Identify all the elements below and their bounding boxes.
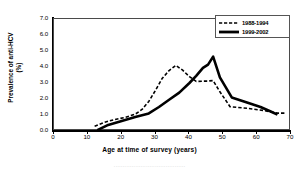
x-tick-label: 70 xyxy=(282,134,298,140)
chart-legend: 1988-1994 1999-2002 xyxy=(215,15,290,38)
x-tick-label: 20 xyxy=(113,134,129,140)
caption-remnant: ········································ xyxy=(0,163,299,170)
x-tick-mark xyxy=(256,131,257,134)
legend-label-0: 1988-1994 xyxy=(242,20,268,26)
y-axis-title: Prevalence of anti-HCV (%) xyxy=(7,12,22,124)
x-axis-title: Age at time of survey (years) xyxy=(0,146,299,153)
x-tick-label: 10 xyxy=(79,134,95,140)
x-tick-label: 30 xyxy=(147,134,163,140)
legend-item-0: 1988-1994 xyxy=(219,18,286,27)
x-tick-mark xyxy=(53,131,54,134)
y-tick-label: 1.0 xyxy=(22,111,48,117)
y-tick-label: 4.0 xyxy=(22,63,48,69)
x-tick-label: 0 xyxy=(45,134,61,140)
legend-dashed-line-icon xyxy=(219,19,239,27)
y-tick-label: 0.0 xyxy=(22,127,48,133)
y-tick-label: 2.0 xyxy=(22,95,48,101)
x-tick-mark xyxy=(87,131,88,134)
y-tick-label: 7.0 xyxy=(22,15,48,21)
chart-figure: Prevalence of anti-HCV (%) 0.01.02.03.04… xyxy=(0,0,299,170)
y-tick-label: 5.0 xyxy=(22,47,48,53)
y-tick-label: 3.0 xyxy=(22,79,48,85)
x-tick-mark xyxy=(188,131,189,134)
x-tick-label: 50 xyxy=(214,134,230,140)
legend-label-1: 1999-2002 xyxy=(242,29,268,35)
y-axis-title-line2: (%) xyxy=(15,63,22,73)
x-tick-label: 60 xyxy=(248,134,264,140)
series-line-1988-1994 xyxy=(95,65,286,126)
x-tick-label: 40 xyxy=(180,134,196,140)
legend-item-1: 1999-2002 xyxy=(219,27,286,36)
x-tick-mark xyxy=(222,131,223,134)
series-line-1999-2002 xyxy=(97,57,277,131)
x-tick-mark xyxy=(155,131,156,134)
legend-solid-line-icon xyxy=(219,28,239,36)
y-axis-title-line1: Prevalence of anti-HCV xyxy=(7,32,14,102)
x-axis-line xyxy=(52,130,291,132)
y-tick-label: 6.0 xyxy=(22,31,48,37)
x-tick-mark xyxy=(290,131,291,134)
x-tick-mark xyxy=(121,131,122,134)
